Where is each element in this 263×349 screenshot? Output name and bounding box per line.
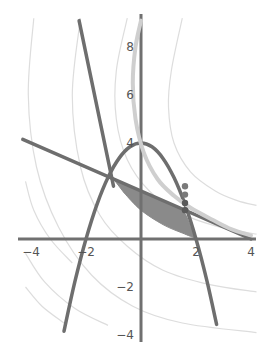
x-tick-label: 4 <box>247 245 255 259</box>
contour-line <box>168 18 256 205</box>
x-tick-label: −2 <box>77 245 95 259</box>
y-tick-label: 6 <box>126 88 134 102</box>
axes <box>18 14 256 342</box>
chart-plot: −4−224−4−2468 <box>0 0 263 349</box>
contour-line <box>26 287 65 323</box>
x-tick-label: 2 <box>192 245 200 259</box>
y-tick-label: −4 <box>116 328 134 342</box>
point-marker <box>182 200 188 206</box>
steep-line-curve <box>79 21 113 187</box>
point-marker <box>182 191 188 197</box>
contour-line <box>72 18 256 292</box>
y-tick-label: 4 <box>126 136 134 150</box>
y-tick-label: 8 <box>126 40 134 54</box>
point-marker <box>182 207 188 213</box>
y-tick-label: −2 <box>116 280 134 294</box>
x-tick-label: −4 <box>22 245 40 259</box>
point-marker <box>182 183 188 189</box>
